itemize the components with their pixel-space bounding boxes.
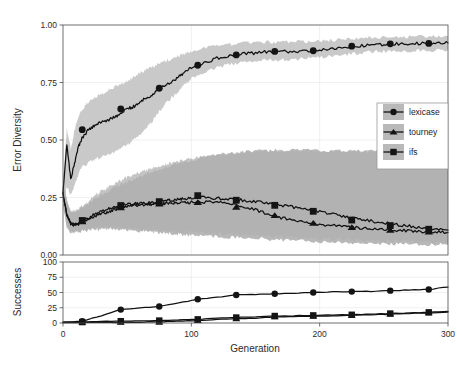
chart-legend: lexicasetourneyifs bbox=[377, 103, 448, 169]
series-marker-lexicase bbox=[118, 306, 124, 312]
legend-key-marker-ifs bbox=[390, 149, 396, 155]
series-marker-ifs bbox=[387, 222, 394, 229]
series-marker-lexicase bbox=[156, 303, 162, 309]
series-marker-ifs bbox=[387, 310, 393, 316]
series-marker-lexicase bbox=[117, 106, 124, 113]
series-marker-ifs bbox=[310, 208, 317, 215]
series-marker-lexicase bbox=[79, 126, 86, 133]
y-tick-label-bottom: 50 bbox=[48, 288, 58, 298]
series-marker-ifs bbox=[348, 217, 355, 224]
series-marker-ifs bbox=[425, 226, 432, 233]
series-marker-lexicase bbox=[233, 292, 239, 298]
series-marker-ifs bbox=[195, 316, 201, 322]
series-marker-ifs bbox=[117, 202, 124, 209]
series-marker-ifs bbox=[233, 197, 240, 204]
series-marker-ifs bbox=[272, 313, 278, 319]
legend-label-ifs[interactable]: ifs bbox=[409, 147, 418, 157]
chart-figure: 0.000.250.500.751.00 Error Diversity lex… bbox=[0, 0, 463, 366]
series-marker-ifs bbox=[310, 312, 316, 318]
series-marker-lexicase bbox=[271, 48, 278, 55]
y-tick-label-top: 1.00 bbox=[40, 20, 57, 30]
series-marker-lexicase bbox=[425, 40, 432, 47]
chart-canvas: 0.000.250.500.751.00 Error Diversity lex… bbox=[0, 0, 463, 366]
series-marker-lexicase bbox=[310, 47, 317, 54]
y-tick-label-top: 0.25 bbox=[40, 193, 57, 203]
legend-label-tourney[interactable]: tourney bbox=[409, 127, 438, 137]
legend-key-marker-lexicase bbox=[390, 109, 396, 115]
series-marker-lexicase bbox=[310, 289, 316, 295]
y-tick-label-bottom: 75 bbox=[48, 272, 58, 282]
x-axis-title: Generation bbox=[230, 343, 279, 354]
x-tick-label: 300 bbox=[441, 329, 455, 339]
x-tick-label: 0 bbox=[61, 329, 66, 339]
x-tick-label: 100 bbox=[184, 329, 198, 339]
series-marker-ifs bbox=[426, 309, 432, 315]
series-marker-ifs bbox=[349, 312, 355, 318]
y-tick-label-top: 0.50 bbox=[40, 135, 57, 145]
series-marker-lexicase bbox=[195, 296, 201, 302]
series-marker-ifs bbox=[233, 314, 239, 320]
series-marker-lexicase bbox=[387, 287, 393, 293]
series-marker-lexicase bbox=[426, 286, 432, 292]
y-tick-label-bottom: 25 bbox=[48, 303, 58, 313]
series-marker-ifs bbox=[118, 318, 124, 324]
series-marker-lexicase bbox=[194, 62, 201, 69]
series-marker-ifs bbox=[194, 192, 201, 199]
series-marker-lexicase bbox=[272, 291, 278, 297]
y-axis-title-top: Error Diversity bbox=[12, 108, 23, 171]
series-marker-ifs bbox=[156, 198, 163, 205]
series-marker-lexicase bbox=[156, 85, 163, 92]
series-marker-lexicase bbox=[387, 40, 394, 47]
y-tick-label-bottom: 100 bbox=[43, 257, 57, 267]
y-axis-title-bottom: Successes bbox=[12, 268, 23, 316]
series-marker-lexicase bbox=[349, 288, 355, 294]
y-tick-label-top: 0.75 bbox=[40, 78, 57, 88]
y-tick-label-bottom: 0 bbox=[52, 318, 57, 328]
x-tick-label: 200 bbox=[313, 329, 327, 339]
series-marker-ifs bbox=[79, 217, 86, 224]
series-marker-lexicase bbox=[348, 43, 355, 50]
legend-label-lexicase[interactable]: lexicase bbox=[409, 107, 440, 117]
series-marker-ifs bbox=[271, 202, 278, 209]
series-marker-lexicase bbox=[233, 52, 240, 59]
series-marker-ifs bbox=[79, 319, 85, 325]
